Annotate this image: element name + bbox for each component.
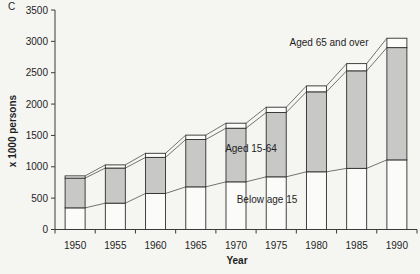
- bar-segment-1965-aged-15-64: [186, 140, 206, 187]
- bar-segment-1955-below-age-15: [105, 203, 125, 229]
- bar-segment-1955-aged-65-and-over: [105, 165, 125, 168]
- y-tick-label: 2000: [26, 99, 49, 110]
- x-axis-title: Year: [226, 255, 247, 266]
- y-tick-label: 0: [42, 224, 48, 235]
- bar-segment-1985-aged-65-and-over: [347, 64, 367, 71]
- bar-segment-1965-below-age-15: [186, 187, 206, 230]
- series-line: [125, 193, 145, 203]
- bar-segment-1960-aged-15-64: [146, 157, 166, 193]
- bar-segment-1955-aged-15-64: [105, 168, 125, 203]
- series-line: [286, 92, 306, 113]
- series-line: [166, 187, 186, 194]
- bar-segment-1965-aged-65-and-over: [186, 135, 206, 139]
- series-line: [85, 203, 105, 208]
- annotation-aged-65-and-over: Aged 65 and over: [290, 37, 370, 48]
- series-line: [326, 71, 346, 92]
- x-tick-label: 1990: [386, 240, 409, 251]
- annotation-aged-15-64: Aged 15-64: [225, 143, 277, 154]
- series-line: [166, 135, 186, 153]
- series-line: [85, 168, 105, 178]
- bar-segment-1980-aged-65-and-over: [306, 86, 326, 92]
- population-stacked-bar-chart: 0500100015002000250030003500195019551960…: [0, 0, 420, 274]
- bar-segment-1950-below-age-15: [65, 208, 85, 230]
- series-line: [326, 64, 346, 86]
- bar-segment-1980-below-age-15: [306, 172, 326, 230]
- annotation-below-age-15: Below age 15: [237, 194, 298, 205]
- bar-segment-1960-below-age-15: [146, 193, 166, 229]
- y-tick-label: 3000: [26, 36, 49, 47]
- bar-segment-1990-aged-65-and-over: [387, 38, 407, 47]
- series-line: [206, 123, 226, 135]
- series-line: [246, 177, 266, 182]
- bar-segment-1985-below-age-15: [347, 168, 367, 229]
- bar-segment-1960-aged-65-and-over: [146, 153, 166, 157]
- y-axis-title: x 1000 persons: [7, 94, 18, 167]
- bar-segment-1975-aged-65-and-over: [266, 107, 286, 112]
- bar-segment-1990-below-age-15: [387, 160, 407, 230]
- series-line: [286, 86, 306, 107]
- bar-segment-1970-below-age-15: [226, 182, 246, 230]
- series-line: [326, 168, 346, 171]
- series-line: [206, 128, 226, 139]
- x-tick-label: 1970: [225, 240, 248, 251]
- y-tick-label: 1000: [26, 161, 49, 172]
- bar-segment-1950-aged-65-and-over: [65, 176, 85, 178]
- x-tick-label: 1980: [305, 240, 328, 251]
- series-line: [166, 140, 186, 158]
- series-line: [206, 182, 226, 187]
- x-tick-label: 1950: [64, 240, 87, 251]
- series-line: [367, 160, 387, 168]
- bar-segment-1970-aged-65-and-over: [226, 123, 246, 128]
- y-tick-label: 2500: [26, 67, 49, 78]
- bar-segment-1990-aged-15-64: [387, 48, 407, 160]
- figure-panel: C 05001000150020002500300035001950195519…: [0, 0, 420, 274]
- x-tick-label: 1965: [185, 240, 208, 251]
- series-line: [286, 172, 306, 177]
- y-tick-label: 1500: [26, 130, 49, 141]
- bar-segment-1950-aged-15-64: [65, 178, 85, 208]
- bar-segment-1985-aged-15-64: [347, 71, 367, 169]
- y-tick-label: 500: [31, 193, 48, 204]
- x-tick-label: 1960: [144, 240, 167, 251]
- x-tick-label: 1955: [104, 240, 127, 251]
- y-tick-label: 3500: [26, 5, 49, 16]
- x-tick-label: 1975: [265, 240, 288, 251]
- bar-segment-1980-aged-15-64: [306, 92, 326, 172]
- series-line: [85, 165, 105, 176]
- x-tick-label: 1985: [346, 240, 369, 251]
- bar-segment-1970-aged-15-64: [226, 128, 246, 182]
